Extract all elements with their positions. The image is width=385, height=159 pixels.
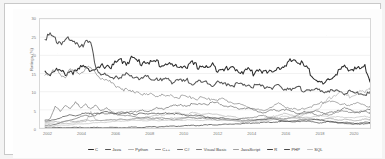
legend-label: C# [184, 147, 189, 152]
x-tick-label: 2012 [213, 131, 222, 136]
legend-item-r[interactable]: R [267, 147, 278, 152]
x-tick-label: 2016 [281, 131, 290, 136]
line-chart-svg [40, 19, 370, 128]
y-tick-label: 5 [34, 108, 36, 113]
legend-label: JavaScript [241, 147, 261, 152]
legend-swatch-icon [284, 149, 290, 150]
y-tick-label: 15 [32, 71, 36, 76]
legend-item-c-[interactable]: C# [177, 147, 190, 152]
legend-swatch-icon [196, 149, 202, 150]
series-line-java [45, 33, 370, 96]
x-tick-label: 2006 [111, 131, 120, 136]
legend-swatch-icon [88, 149, 94, 150]
legend-label: SQL [314, 147, 322, 152]
legend-item-c-[interactable]: C++ [155, 147, 170, 152]
y-tick-label: 30 [32, 16, 36, 21]
legend-swatch-icon [177, 149, 183, 150]
legend-swatch-icon [233, 149, 239, 150]
legend-label: Python [135, 147, 148, 152]
screenshot-frame: Ratings (%) 051015202530 200220042006200… [0, 0, 385, 159]
legend-item-javascript[interactable]: JavaScript [233, 147, 260, 152]
legend-label: R [274, 147, 277, 152]
legend-label: Java [112, 147, 121, 152]
legend-label: C [95, 147, 98, 152]
plot-area [39, 18, 371, 129]
legend-item-c[interactable]: C [88, 147, 99, 152]
series-line-c- [45, 66, 370, 111]
legend-swatch-icon [307, 149, 313, 150]
x-tick-label: 2008 [145, 131, 154, 136]
legend-label: C++ [162, 147, 170, 152]
legend-label: PHP [291, 147, 300, 152]
legend-item-python[interactable]: Python [128, 147, 149, 152]
legend-label: Visual Basic [204, 147, 227, 152]
chart-container: Ratings (%) 051015202530 200220042006200… [13, 9, 382, 158]
x-tick-label: 2018 [315, 131, 324, 136]
y-tick-label: 10 [32, 90, 36, 95]
x-tick-label: 2020 [350, 131, 359, 136]
x-axis-ticks: 2002200420062008201020122014201620182020 [39, 131, 371, 140]
page-sheet: Ratings (%) 051015202530 200220042006200… [4, 3, 381, 155]
x-tick-label: 2014 [247, 131, 256, 136]
legend-item-visual-basic[interactable]: Visual Basic [196, 147, 226, 152]
legend-item-java[interactable]: Java [105, 147, 121, 152]
x-tick-label: 2010 [179, 131, 188, 136]
y-tick-label: 20 [32, 53, 36, 58]
legend-swatch-icon [128, 149, 134, 150]
legend-item-php[interactable]: PHP [284, 147, 300, 152]
x-tick-label: 2002 [43, 131, 52, 136]
y-tick-label: 25 [32, 34, 36, 39]
legend-item-sql[interactable]: SQL [307, 147, 323, 152]
legend-swatch-icon [155, 149, 161, 150]
x-tick-label: 2004 [77, 131, 86, 136]
legend-swatch-icon [267, 149, 273, 150]
y-tick-label: 0 [34, 127, 36, 132]
chart-legend: CJavaPythonC++C#Visual BasicJavaScriptRP… [39, 145, 371, 154]
legend-swatch-icon [105, 149, 111, 150]
